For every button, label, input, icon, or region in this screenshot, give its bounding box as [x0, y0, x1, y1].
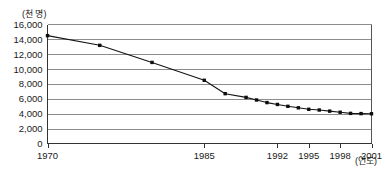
x-tick-label: 1998 [330, 150, 351, 161]
y-tick-label: 4,000 [19, 108, 43, 119]
gridlines [48, 40, 372, 130]
y-tick-label: 16,000 [13, 19, 42, 30]
data-point-marker [359, 112, 362, 115]
y-tick-label: 6,000 [19, 93, 43, 104]
data-point-marker [297, 106, 300, 109]
x-tick-label: 1992 [267, 150, 288, 161]
y-tick-label: 12,000 [13, 49, 42, 60]
x-tick-label: 1995 [298, 150, 319, 161]
series-line-path [48, 36, 372, 114]
line-chart-plot: 02,0004,0006,0008,00010,00012,00014,0001… [0, 0, 389, 174]
data-point-marker [244, 96, 247, 99]
data-point-marker [98, 44, 101, 47]
data-point-marker [150, 61, 153, 64]
y-tick-label: 0 [37, 138, 42, 149]
data-point-marker [223, 92, 226, 95]
data-point-marker [338, 111, 341, 114]
data-point-marker [203, 79, 206, 82]
y-tick-label: 8,000 [19, 78, 43, 89]
data-point-marker [328, 109, 331, 112]
y-axis-tick-labels: 02,0004,0006,0008,00010,00012,00014,0001… [13, 19, 42, 149]
data-point-marker [286, 105, 289, 108]
x-tick-label: 1970 [37, 150, 58, 161]
data-point-marker [265, 101, 268, 104]
data-point-marker [318, 108, 321, 111]
y-tick-label: 10,000 [13, 64, 42, 75]
data-point-marker [46, 34, 49, 37]
x-tick-label: 1985 [194, 150, 215, 161]
data-point-marker [307, 108, 310, 111]
data-point-marker [255, 98, 258, 101]
x-axis-ticks [49, 144, 373, 148]
data-point-marker [370, 112, 373, 115]
x-tick-label: 2001 [361, 150, 382, 161]
data-point-marker [349, 112, 352, 115]
y-tick-label: 14,000 [13, 34, 42, 45]
chart-figure: (천 명) (연도) 02,0004,0006,0008,00010,00012… [0, 0, 389, 174]
series-markers [46, 34, 373, 115]
y-tick-label: 2,000 [19, 123, 43, 134]
data-point-marker [276, 103, 279, 106]
x-axis-tick-labels: 197019851992199519982001 [37, 150, 382, 161]
